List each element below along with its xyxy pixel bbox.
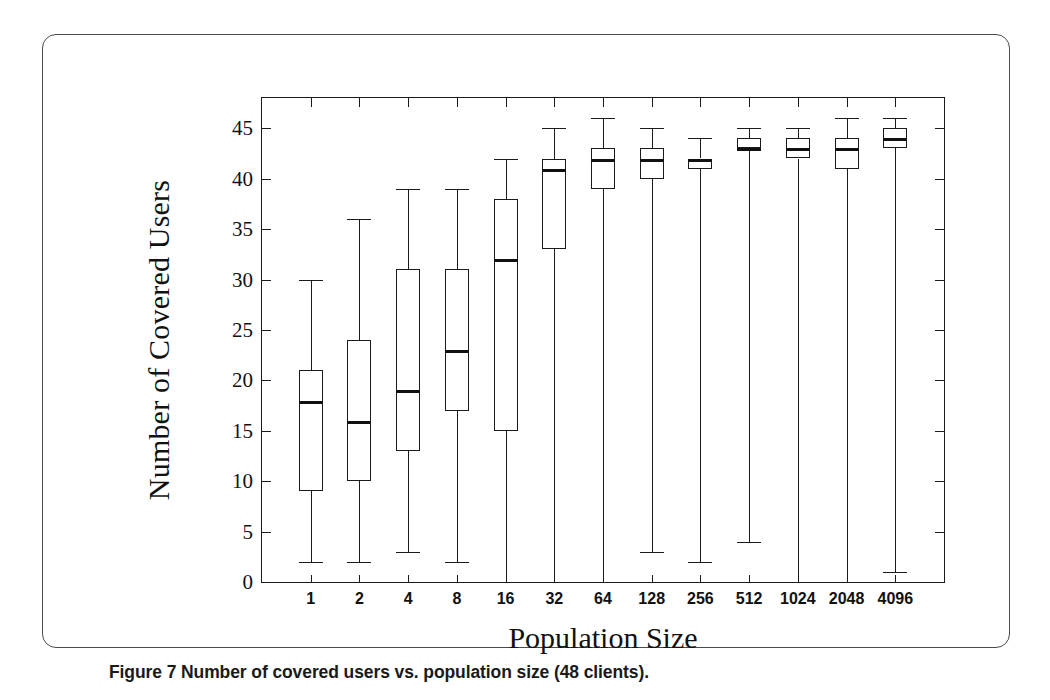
whisker-cap-lower [883,572,907,573]
whisker-cap-lower [445,562,469,563]
median-line [737,148,761,151]
x-axis-tick-label: 64 [594,590,612,608]
y-axis-tick [262,128,271,129]
box-iqr [494,199,518,431]
x-axis-tick-top [408,98,409,107]
box-iqr [542,159,566,250]
box-iqr [640,148,664,178]
whisker-cap-upper [347,219,371,220]
y-axis-tick-right [935,431,944,432]
y-axis-tick [262,431,271,432]
whisker-upper [359,219,360,340]
x-axis-tick-label: 256 [687,590,714,608]
y-axis-tick-right [935,179,944,180]
y-axis-tick-label: 5 [243,519,254,544]
y-axis-tick-label: 15 [232,418,253,443]
whisker-cap-upper [737,128,761,129]
x-axis-tick-bottom [749,575,750,582]
box-iqr [347,340,371,481]
figure-caption: Figure 7 Number of covered users vs. pop… [109,662,649,683]
x-axis-tick-bottom [359,575,360,582]
whisker-cap-upper [786,128,810,129]
whisker-cap-lower [396,552,420,553]
figure-page: Number of Covered Users 0510152025303540… [0,0,1050,700]
whisker-cap-lower [835,582,859,583]
whisker-lower [700,169,701,562]
y-axis-tick-right [935,481,944,482]
whisker-lower [603,189,604,582]
whisker-upper [603,118,604,148]
median-line [591,159,615,162]
median-line [640,159,664,162]
figure-frame: Number of Covered Users 0510152025303540… [42,34,1010,648]
whisker-lower [457,411,458,562]
x-axis-tick-bottom [457,575,458,582]
whisker-cap-lower [786,582,810,583]
median-line [347,421,371,424]
x-axis-tick-label: 2 [355,590,364,608]
y-axis-tick-label: 0 [243,570,254,595]
whisker-cap-upper [445,189,469,190]
whisker-cap-upper [835,118,859,119]
whisker-cap-upper [396,189,420,190]
y-axis-tick [262,481,271,482]
whisker-upper [554,128,555,158]
whisker-lower [847,169,848,582]
x-axis-tick-top [798,98,799,107]
median-line [883,138,907,141]
whisker-cap-lower [299,562,323,563]
whisker-cap-upper [494,159,518,160]
whisker-lower [311,491,312,562]
whisker-lower [749,148,750,541]
median-line [688,159,712,162]
median-line [299,401,323,404]
x-axis-tick-top [311,98,312,107]
whisker-lower [408,451,409,552]
y-axis-tick-right [935,280,944,281]
whisker-upper [457,189,458,270]
box-iqr [591,148,615,188]
x-axis-tick-top [603,98,604,107]
x-axis-tick-label: 2048 [829,590,865,608]
y-axis-tick-right [935,229,944,230]
whisker-lower [359,481,360,562]
x-axis-tick-label: 1 [306,590,315,608]
plot-area: 0510152025303540451248163264128256512102… [261,97,945,583]
x-axis-tick-top [359,98,360,107]
x-axis-tick-top [847,98,848,107]
y-axis-tick-label: 40 [232,166,253,191]
x-axis-tick-top [700,98,701,107]
whisker-upper [749,128,750,138]
x-axis-tick-bottom [700,575,701,582]
whisker-cap-lower [494,582,518,583]
whisker-cap-upper [299,280,323,281]
median-line [835,148,859,151]
whisker-cap-lower [737,542,761,543]
box-iqr [299,370,323,491]
whisker-cap-lower [640,552,664,553]
whisker-cap-lower [688,562,712,563]
x-axis-tick-label: 512 [736,590,763,608]
y-axis-tick [262,532,271,533]
x-axis-tick-label: 32 [545,590,563,608]
median-line [445,350,469,353]
y-axis-tick-right [935,532,944,533]
whisker-cap-upper [883,118,907,119]
whisker-cap-upper [542,128,566,129]
box-iqr [445,269,469,410]
whisker-upper [895,118,896,128]
x-axis-tick-bottom [652,575,653,582]
whisker-upper [408,189,409,270]
y-axis-tick-right [935,582,944,583]
x-axis-tick-bottom [895,575,896,582]
median-line [396,390,420,393]
whisker-cap-upper [688,138,712,139]
whisker-lower [652,179,653,552]
y-axis-tick-right [935,380,944,381]
x-axis-tick-label: 4 [404,590,413,608]
y-axis-tick-label: 45 [232,116,253,141]
median-line [494,259,518,262]
whisker-lower [554,249,555,582]
box-iqr [835,138,859,168]
y-axis-tick [262,380,271,381]
